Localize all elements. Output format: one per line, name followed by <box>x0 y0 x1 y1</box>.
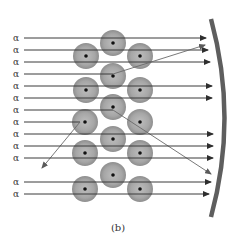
nucleus-dot <box>83 151 87 155</box>
nucleus-dot <box>83 120 87 124</box>
nucleus-dot <box>111 105 115 109</box>
nucleus-dot <box>111 173 115 177</box>
figure-caption: (b) <box>111 222 125 233</box>
alpha-particle-label: α <box>13 93 19 103</box>
alpha-ray-backscattered <box>42 122 80 168</box>
detector-screen <box>211 19 225 217</box>
alpha-particle-label: α <box>13 117 19 127</box>
nucleus-dot <box>83 187 87 191</box>
alpha-particle-label: α <box>13 153 19 163</box>
alpha-particle-label: α <box>13 105 19 115</box>
alpha-particle-label: α <box>13 57 19 67</box>
alpha-particle-label: α <box>13 189 19 199</box>
gold-atom <box>100 30 126 56</box>
gold-atom <box>73 77 99 103</box>
alpha-labels-layer: ααααααααααααα <box>13 33 19 199</box>
alpha-ray-deflected <box>113 45 205 74</box>
nucleus-dot <box>138 88 142 92</box>
gold-atom <box>73 43 99 69</box>
alpha-particle-label: α <box>13 177 19 187</box>
nucleus-dot <box>84 54 88 58</box>
nucleus-dot <box>111 137 115 141</box>
gold-atom <box>72 176 98 202</box>
nucleus-dot <box>138 187 142 191</box>
gold-atom <box>100 63 126 89</box>
gold-atom <box>100 162 126 188</box>
gold-atom <box>127 77 153 103</box>
alpha-particle-label: α <box>13 45 19 55</box>
alpha-particle-label: α <box>13 141 19 151</box>
alpha-particle-label: α <box>13 129 19 139</box>
nucleus-dot <box>138 54 142 58</box>
gold-atom <box>72 140 98 166</box>
nucleus-dot <box>111 74 115 78</box>
nucleus-dot <box>138 120 142 124</box>
alpha-particle-label: α <box>13 81 19 91</box>
gold-atom <box>127 176 153 202</box>
nucleus-dot <box>84 88 88 92</box>
nucleus-dot <box>111 41 115 45</box>
alpha-ray-deflected <box>113 110 211 174</box>
gold-atom <box>127 140 153 166</box>
alpha-particle-label: α <box>13 69 19 79</box>
gold-atoms-layer <box>72 30 153 202</box>
alpha-scattering-diagram: ααααααααααααα (b) <box>0 0 237 237</box>
nucleus-dot <box>138 151 142 155</box>
gold-atom <box>100 126 126 152</box>
alpha-particle-label: α <box>13 33 19 43</box>
